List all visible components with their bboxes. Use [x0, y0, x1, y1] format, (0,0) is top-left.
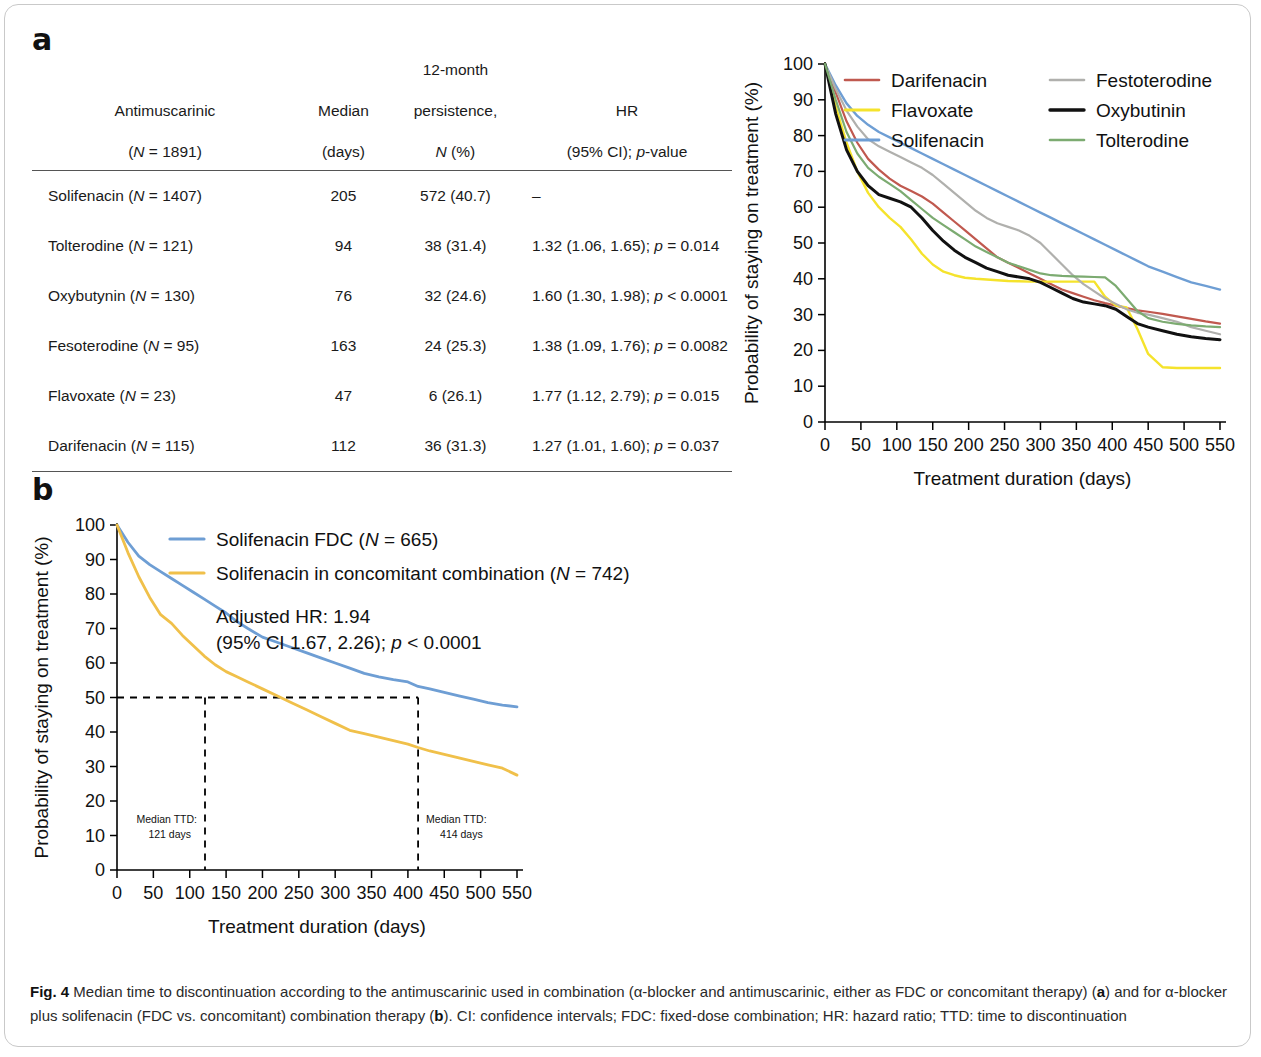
y-tick-label: 90 — [793, 90, 813, 110]
y-tick-label: 0 — [95, 860, 105, 880]
cell-drug: Solifenacin (N = 1407) — [32, 170, 298, 221]
x-tick-label: 250 — [284, 883, 314, 903]
panel-b-svg: 0102030405060708090100050100150200250300… — [22, 505, 722, 970]
panel-a-chart: 0102030405060708090100050100150200250300… — [740, 40, 1260, 504]
x-tick-label: 400 — [1097, 435, 1127, 455]
cell-hr: 1.32 (1.06, 1.65); p = 0.014 — [522, 221, 732, 271]
drug-name: Oxybutynin — [48, 287, 130, 304]
legend-label-3: Festoterodine — [1096, 70, 1212, 91]
x-tick-label: 450 — [429, 883, 459, 903]
x-tick-label: 500 — [466, 883, 496, 903]
x-tick-label: 350 — [1061, 435, 1091, 455]
x-tick-label: 0 — [112, 883, 122, 903]
table-row: Solifenacin (N = 1407)205572 (40.7)– — [32, 170, 732, 221]
cell-drug: Flavoxate (N = 23) — [32, 371, 298, 421]
panel-b-label: b — [32, 472, 53, 507]
legend-label-2: Solifenacin — [891, 130, 984, 151]
y-tick-label: 80 — [85, 584, 105, 604]
y-tick-label: 10 — [793, 376, 813, 396]
cell-persistence: 6 (26.1) — [389, 371, 522, 421]
y-tick-label: 50 — [793, 233, 813, 253]
drug-name: Tolterodine — [48, 237, 128, 254]
cell-median: 112 — [298, 421, 389, 472]
col-header-median: Median (days) — [298, 40, 389, 170]
x-tick-label: 150 — [211, 883, 241, 903]
x-axis-title: Treatment duration (days) — [914, 468, 1132, 489]
col-header-persistence-line2: persistence, — [414, 102, 498, 119]
series-line-2 — [825, 64, 1220, 290]
x-tick-label: 100 — [882, 435, 912, 455]
legend-label-1: Solifenacin in concomitant combination (… — [216, 563, 630, 584]
caption-figure-number: Fig. 4 — [30, 983, 69, 1000]
cell-median: 205 — [298, 170, 389, 221]
n-italic: N — [133, 143, 144, 160]
cell-hr: 1.27 (1.01, 1.60); p = 0.037 — [522, 421, 732, 472]
table-row: Oxybutynin (N = 130)7632 (24.6)1.60 (1.3… — [32, 271, 732, 321]
y-tick-label: 80 — [793, 126, 813, 146]
median-ttd-label-line1: Median TTD: — [426, 813, 487, 825]
x-tick-label: 200 — [247, 883, 277, 903]
table-row: Darifenacin (N = 115)11236 (31.3)1.27 (1… — [32, 421, 732, 472]
cell-persistence: 24 (25.3) — [389, 321, 522, 371]
cell-drug: Tolterodine (N = 121) — [32, 221, 298, 271]
figure-caption: Fig. 4 Median time to discontinuation ac… — [30, 980, 1230, 1029]
col-header-ci: (95% CI); — [567, 143, 637, 160]
x-tick-label: 100 — [175, 883, 205, 903]
annotation-hr-line2: (95% CI 1.67, 2.26); p < 0.0001 — [216, 632, 482, 653]
x-tick-label: 50 — [143, 883, 163, 903]
cell-median: 94 — [298, 221, 389, 271]
legend-label-0: Darifenacin — [891, 70, 987, 91]
col-header-antimuscarinic: Antimuscarinic (N = 1891) — [32, 40, 298, 170]
col-header-hr: HR (95% CI); p-value — [522, 40, 732, 170]
col-header-antimuscarinic-line1: Antimuscarinic — [115, 102, 216, 119]
drug-n: (N = 130) — [130, 287, 195, 304]
y-tick-label: 60 — [85, 653, 105, 673]
legend-label-5: Tolterodine — [1096, 130, 1189, 151]
y-tick-label: 70 — [793, 161, 813, 181]
y-tick-label: 70 — [85, 619, 105, 639]
cell-drug: Fesoterodine (N = 95) — [32, 321, 298, 371]
x-tick-label: 500 — [1169, 435, 1199, 455]
drug-n: (N = 1407) — [128, 187, 202, 204]
y-tick-label: 0 — [803, 412, 813, 432]
col-header-median-line1: Median — [318, 102, 369, 119]
y-tick-label: 60 — [793, 197, 813, 217]
drug-name: Darifenacin — [48, 437, 131, 454]
cell-hr: 1.77 (1.12, 2.79); p = 0.015 — [522, 371, 732, 421]
y-tick-label: 100 — [783, 54, 813, 74]
y-tick-label: 20 — [85, 791, 105, 811]
y-tick-label: 20 — [793, 340, 813, 360]
drug-name: Flavoxate — [48, 387, 120, 404]
figure-page: a Antimuscarinic (N = 1891) Median (days… — [0, 0, 1261, 1057]
cell-median: 76 — [298, 271, 389, 321]
cell-hr: 1.38 (1.09, 1.76); p = 0.0082 — [522, 321, 732, 371]
cell-persistence: 572 (40.7) — [389, 170, 522, 221]
x-tick-label: 400 — [393, 883, 423, 903]
x-tick-label: 450 — [1133, 435, 1163, 455]
drug-n: (N = 115) — [131, 437, 195, 454]
col-header-persistence-line1: 12-month — [423, 61, 488, 78]
antimuscarinic-table: Antimuscarinic (N = 1891) Median (days) … — [32, 40, 732, 472]
cell-hr: 1.60 (1.30, 1.98); p < 0.0001 — [522, 271, 732, 321]
cell-persistence: 32 (24.6) — [389, 271, 522, 321]
drug-n: (N = 23) — [120, 387, 176, 404]
col-header-hr-line1: HR — [616, 102, 638, 119]
p-italic: p — [636, 143, 645, 160]
x-tick-label: 550 — [502, 883, 532, 903]
y-tick-label: 30 — [85, 757, 105, 777]
table-body: Solifenacin (N = 1407)205572 (40.7)–Tolt… — [32, 170, 732, 471]
y-tick-label: 40 — [793, 269, 813, 289]
col-header-median-line2: (days) — [322, 143, 365, 160]
x-tick-label: 300 — [1025, 435, 1055, 455]
y-axis-title: Probability of staying on treatment (%) — [741, 82, 762, 404]
legend-label-4: Oxybutinin — [1096, 100, 1186, 121]
col-header-persistence-n: N — [436, 143, 447, 160]
median-ttd-label-line2: 121 days — [148, 828, 191, 840]
y-tick-label: 100 — [75, 515, 105, 535]
cell-persistence: 38 (31.4) — [389, 221, 522, 271]
drug-n: (N = 121) — [128, 237, 193, 254]
cell-median: 47 — [298, 371, 389, 421]
p-value-suffix: -value — [645, 143, 687, 160]
median-ttd-label-line1: Median TTD: — [137, 813, 198, 825]
cell-hr: – — [522, 170, 732, 221]
